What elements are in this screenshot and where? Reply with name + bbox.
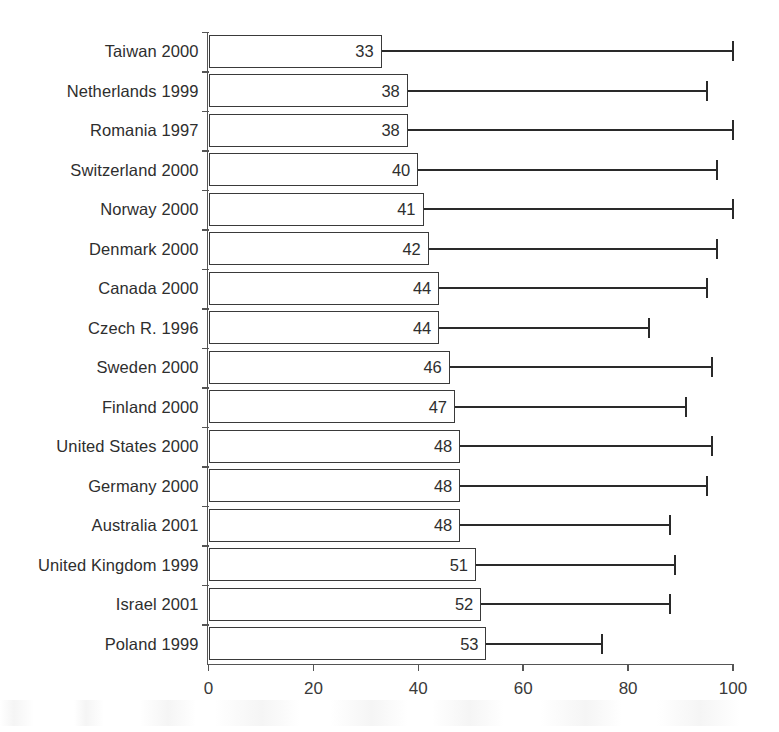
range-whisker-cap xyxy=(732,199,734,219)
bar-value-label: 33 xyxy=(336,43,374,60)
range-whisker-cap xyxy=(706,278,708,298)
bar-value-label: 51 xyxy=(430,557,468,574)
x-axis-tick-label: 80 xyxy=(588,680,668,697)
category-label: Finland 2000 xyxy=(102,399,199,416)
bar-value-label: 41 xyxy=(378,201,416,218)
x-axis-tick xyxy=(313,664,315,671)
range-whisker-line xyxy=(382,50,733,52)
category-label: Germany 2000 xyxy=(88,478,198,495)
range-whisker-line xyxy=(476,564,675,566)
category-label: Switzerland 2000 xyxy=(70,162,198,179)
range-whisker-cap xyxy=(716,239,718,259)
range-whisker-cap xyxy=(669,594,671,614)
x-axis-tick xyxy=(732,664,734,671)
range-whisker-cap xyxy=(706,476,708,496)
x-axis-line xyxy=(207,664,733,666)
x-axis-tick-label: 60 xyxy=(483,680,563,697)
category-label: Australia 2001 xyxy=(92,517,199,534)
category-label: Poland 1999 xyxy=(105,636,199,653)
category-label: Denmark 2000 xyxy=(89,241,198,258)
bar-chart-plot-area: Taiwan 200033Netherlands 199938Romania 1… xyxy=(0,0,779,732)
range-whisker-cap xyxy=(648,318,650,338)
y-axis-line xyxy=(207,32,209,664)
category-label: Romania 1997 xyxy=(90,122,199,139)
range-whisker-line xyxy=(439,287,706,289)
category-label: Taiwan 2000 xyxy=(105,43,199,60)
range-whisker-line xyxy=(424,208,733,210)
category-label: Israel 2001 xyxy=(116,596,199,613)
x-axis-tick-label: 40 xyxy=(378,680,458,697)
range-whisker-line xyxy=(418,169,717,171)
range-whisker-cap xyxy=(706,81,708,101)
range-whisker-line xyxy=(439,327,649,329)
bar-value-label: 48 xyxy=(414,478,452,495)
category-label: Netherlands 1999 xyxy=(67,83,199,100)
x-axis-tick xyxy=(418,664,420,671)
range-whisker-cap xyxy=(732,41,734,61)
bar-value-label: 40 xyxy=(372,162,410,179)
range-whisker-line xyxy=(460,485,707,487)
bar-value-label: 38 xyxy=(362,83,400,100)
x-axis-tick-label: 0 xyxy=(169,680,249,697)
range-whisker-cap xyxy=(674,555,676,575)
bar-value-label: 42 xyxy=(383,241,421,258)
bar-value-label: 47 xyxy=(409,399,447,416)
range-whisker-line xyxy=(450,366,712,368)
x-axis-tick xyxy=(522,664,524,671)
range-whisker-cap xyxy=(685,397,687,417)
range-whisker-line xyxy=(408,90,707,92)
category-label: Canada 2000 xyxy=(98,280,198,297)
chart-page: Taiwan 200033Netherlands 199938Romania 1… xyxy=(0,0,779,732)
bar-value-label: 53 xyxy=(440,636,478,653)
bar-value-label: 46 xyxy=(404,359,442,376)
bar-value-label: 48 xyxy=(414,517,452,534)
range-whisker-line xyxy=(429,248,717,250)
x-axis-tick-label: 100 xyxy=(693,680,773,697)
x-axis-tick xyxy=(627,664,629,671)
bar-value-label: 52 xyxy=(435,596,473,613)
range-whisker-cap xyxy=(716,160,718,180)
bar-value-label: 48 xyxy=(414,438,452,455)
bar-value-label: 44 xyxy=(393,280,431,297)
category-label: Czech R. 1996 xyxy=(88,320,198,337)
category-label: Sweden 2000 xyxy=(96,359,198,376)
x-axis-tick-label: 20 xyxy=(273,680,353,697)
range-whisker-line xyxy=(486,643,601,645)
category-label: United States 2000 xyxy=(56,438,198,455)
x-axis-tick xyxy=(208,664,210,671)
range-whisker-cap xyxy=(711,436,713,456)
category-label: United Kingdom 1999 xyxy=(38,557,199,574)
range-whisker-line xyxy=(460,524,670,526)
range-whisker-cap xyxy=(601,634,603,654)
category-label: Norway 2000 xyxy=(100,201,198,218)
range-whisker-line xyxy=(460,445,712,447)
range-whisker-cap xyxy=(669,515,671,535)
range-whisker-cap xyxy=(732,120,734,140)
range-whisker-line xyxy=(455,406,686,408)
range-whisker-cap xyxy=(711,357,713,377)
range-whisker-line xyxy=(481,603,670,605)
bar-value-label: 38 xyxy=(362,122,400,139)
range-whisker-line xyxy=(408,129,733,131)
bar-value-label: 44 xyxy=(393,320,431,337)
